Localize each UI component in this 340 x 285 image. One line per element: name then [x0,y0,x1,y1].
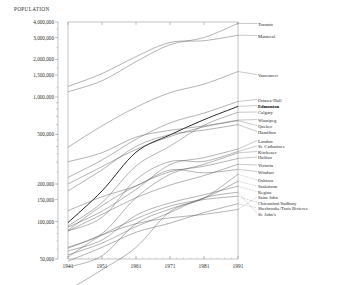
series-label-halifax: Halifax [258,155,272,160]
leader-line [238,106,257,107]
series-label-ottawa: Ottawa-Hull [258,97,282,102]
leader-line [238,120,257,121]
leader-line [238,181,257,186]
leader-line [238,125,257,132]
leader-line [238,157,257,158]
series-line [68,174,238,285]
series-line [68,72,238,148]
series-label-calgary: Calgary [258,110,273,115]
leader-line [238,169,257,171]
series-label-hamilton: Hamilton [258,129,276,134]
leader-line [238,192,257,213]
series-label-winnipeg: Winnipeg [258,117,276,122]
leader-line [238,141,257,150]
series-line [68,23,238,91]
series-label-windsor: Windsor [258,169,274,174]
leader-line [238,186,257,191]
series-label-oshawa: Oshawa [258,178,273,183]
leader-line [238,146,257,151]
series-label-saskatoon: Saskatoon [258,184,277,189]
series-line [68,121,238,184]
series-line [68,204,238,262]
series-line [68,181,238,267]
series-line [68,169,238,210]
series-line [68,196,238,257]
series-label-stcatharines: St. Catharines [258,144,284,149]
series-label-kitchener: Kitchener [258,149,277,154]
series-line [68,125,238,191]
series-line [68,149,238,227]
series-line [68,112,238,226]
series-label-saintjohn: Saint John [258,195,278,200]
series-label-quebec: Quebec [258,123,272,128]
series-label-toronto: Toronto [258,21,273,26]
series-label-stjohns: St. John's [258,211,276,216]
leader-line [238,174,257,180]
leader-line [238,72,257,75]
series-label-regina: Regina [258,189,271,194]
leader-line [238,121,257,126]
chart-root: POPULATION 4,000,000 3,000,000 2,000,000… [0,0,340,285]
series-label-montreal: Montreal [258,33,275,38]
series-label-chicoutimi: Chicoutimi/Sudbury [258,200,296,205]
series-label-edmonton: Edmonton [258,103,279,108]
leader-line [238,152,257,153]
leader-line [238,196,257,202]
leader-line [238,197,257,209]
series-line [68,164,238,231]
series-line [68,35,238,86]
leader-line [238,100,257,102]
chart-canvas [0,0,340,285]
leader-line [238,164,257,165]
series-label-vancouver: Vancouver [258,72,278,77]
series-line [68,192,238,255]
series-label-sherbrooke: Sherbrooke/Trois Rivieres [258,206,308,211]
series-label-london: London [258,138,273,143]
series-label-victoria: Victoria [258,163,273,168]
